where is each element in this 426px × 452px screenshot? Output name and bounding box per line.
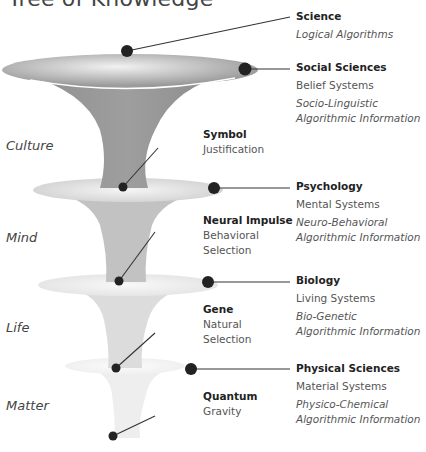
quantum-dot bbox=[109, 432, 118, 441]
domain-info: Neuro-Behavioral bbox=[296, 215, 420, 230]
domain-info: Algorithmic Information bbox=[296, 412, 420, 427]
domain-info: Algorithmic Information bbox=[296, 230, 420, 245]
culture-funnel bbox=[2, 54, 258, 188]
psychology-dot bbox=[208, 182, 220, 194]
inner-heading: Neural Impulse bbox=[203, 213, 293, 228]
science-subtitle: Logical Algorithms bbox=[296, 27, 393, 42]
level-label-life: Life bbox=[6, 320, 29, 335]
domain-info: Algorithmic Information bbox=[296, 111, 420, 126]
inner-line: Gravity bbox=[203, 404, 257, 419]
domain-heading: Psychology bbox=[296, 179, 420, 194]
mind-funnel bbox=[33, 178, 223, 282]
biology-dot bbox=[202, 276, 214, 288]
domain-heading: Social Sciences bbox=[296, 60, 420, 75]
domain-system: Material Systems bbox=[296, 379, 420, 394]
domain-system: Mental Systems bbox=[296, 197, 420, 212]
domain-system: Belief Systems bbox=[296, 78, 420, 93]
diagram-title: Tree of Knowledge bbox=[8, 0, 213, 11]
domain-system: Living Systems bbox=[296, 291, 420, 306]
inner-label-gene: Gene Natural Selection bbox=[203, 302, 251, 347]
symbol-dot bbox=[119, 183, 128, 192]
domain-heading: Biology bbox=[296, 273, 420, 288]
level-label-matter: Matter bbox=[6, 398, 49, 413]
domain-info: Socio-Linguistic bbox=[296, 96, 420, 111]
level-label-mind: Mind bbox=[6, 230, 37, 245]
inner-heading: Quantum bbox=[203, 389, 257, 404]
domain-info: Algorithmic Information bbox=[296, 324, 420, 339]
domain-physical-sciences: Physical Sciences Material Systems Physi… bbox=[296, 361, 420, 427]
inner-line: Justification bbox=[203, 142, 264, 157]
domain-psychology: Psychology Mental Systems Neuro-Behavior… bbox=[296, 179, 420, 245]
life-funnel bbox=[38, 274, 218, 368]
inner-line: Selection bbox=[203, 243, 293, 258]
science-heading: Science bbox=[296, 9, 393, 24]
physical-sciences-dot bbox=[185, 363, 197, 375]
inner-line: Selection bbox=[203, 332, 251, 347]
science-label: Science Logical Algorithms bbox=[296, 9, 393, 42]
matter-funnel bbox=[65, 358, 185, 438]
science-dot bbox=[121, 45, 133, 57]
inner-heading: Gene bbox=[203, 302, 251, 317]
domain-biology: Biology Living Systems Bio-Genetic Algor… bbox=[296, 273, 420, 339]
level-label-culture: Culture bbox=[6, 138, 54, 153]
domain-info: Bio-Genetic bbox=[296, 309, 420, 324]
inner-label-quantum: Quantum Gravity bbox=[203, 389, 257, 419]
social-sciences-dot bbox=[239, 63, 252, 76]
inner-line: Behavioral bbox=[203, 228, 293, 243]
inner-line: Natural bbox=[203, 317, 251, 332]
domain-info: Physico-Chemical bbox=[296, 397, 420, 412]
neural-impulse-dot bbox=[115, 277, 124, 286]
domain-heading: Physical Sciences bbox=[296, 361, 420, 376]
inner-label-neural-impulse: Neural Impulse Behavioral Selection bbox=[203, 213, 293, 258]
domain-social-sciences: Social Sciences Belief Systems Socio-Lin… bbox=[296, 60, 420, 126]
inner-heading: Symbol bbox=[203, 127, 264, 142]
inner-label-symbol: Symbol Justification bbox=[203, 127, 264, 157]
gene-dot bbox=[112, 364, 121, 373]
